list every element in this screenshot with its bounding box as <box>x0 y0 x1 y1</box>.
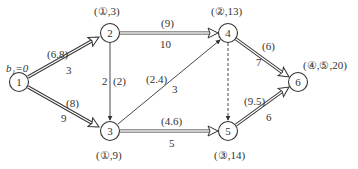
edge-3-5-weight: 5 <box>169 137 175 149</box>
node-4-label: 4 <box>225 27 231 39</box>
edge-5-6-paren: (9.5) <box>244 95 265 107</box>
node-6-label: 6 <box>295 76 301 88</box>
node-1-label: 1 <box>16 76 22 88</box>
node-3: 3 <box>101 122 120 141</box>
edge-3-5-paren: (4.6) <box>161 115 182 127</box>
node-4-annotation: (②,13) <box>211 5 242 17</box>
node-2: 2 <box>101 24 120 43</box>
edge-3-4-weight: 3 <box>172 83 178 95</box>
edge-3-4-paren: (2.4) <box>146 73 167 85</box>
node-6: 6 <box>289 73 308 92</box>
edge-5-6-weight: 6 <box>266 111 272 123</box>
node-5-label: 5 <box>225 125 231 137</box>
network-diagram: 1 2 3 4 5 6 <box>0 0 358 169</box>
edge-4-6-paren: (6) <box>262 40 275 52</box>
node-5: 5 <box>219 122 238 141</box>
edge-1-3-weight: 9 <box>61 112 67 124</box>
node-2-label: 2 <box>107 27 113 39</box>
node-5-annotation: (③,14) <box>214 149 245 161</box>
edge-2-3-weight: 2 <box>102 75 108 87</box>
edge-2-3-paren: (2) <box>113 75 126 87</box>
node-3-annotation: (①,9) <box>96 149 122 161</box>
node-3-label: 3 <box>107 125 113 137</box>
edge-3-4 <box>118 40 220 124</box>
start-label: b₁=0 <box>6 62 28 74</box>
edge-1-3-paren: (8) <box>66 97 79 109</box>
node-1: 1 <box>10 73 29 92</box>
edge-2-4-weight: 10 <box>160 38 171 50</box>
edge-1-2-paren: (6.8) <box>47 48 68 60</box>
node-6-annotation: (④,⑤,20) <box>303 59 347 71</box>
node-4: 4 <box>219 24 238 43</box>
edge-4-6-weight: 7 <box>256 56 262 68</box>
edge-1-2-weight: 3 <box>66 64 72 76</box>
node-2-annotation: (①,3) <box>94 5 120 17</box>
edge-2-4-paren: (9) <box>161 17 174 29</box>
